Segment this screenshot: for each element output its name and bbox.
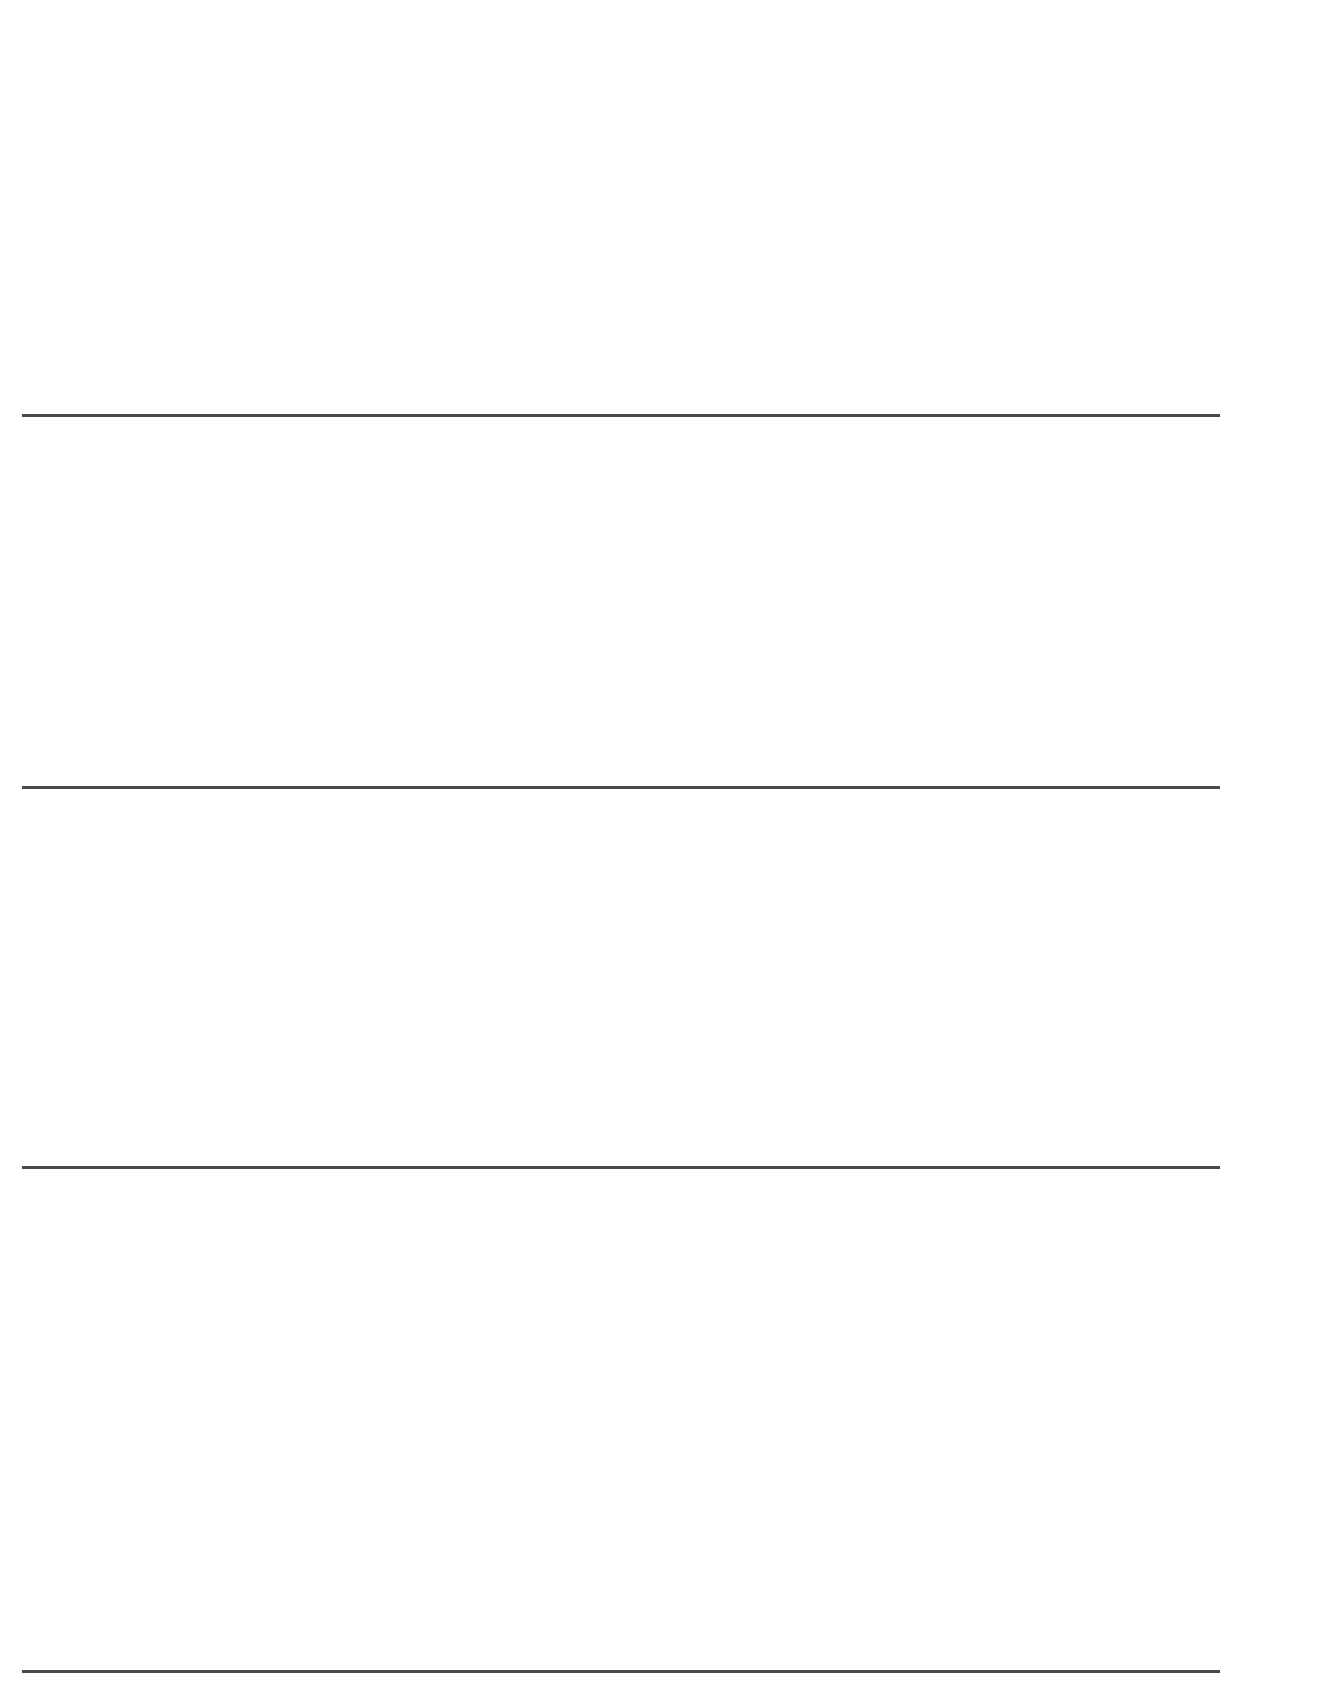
panel-separator-b xyxy=(22,786,1220,789)
panel-21c xyxy=(0,790,1342,1170)
panel-21b xyxy=(0,418,1342,790)
panel-21d xyxy=(0,1170,1342,1694)
panel-separator-c xyxy=(22,1166,1220,1169)
panel-separator-a xyxy=(22,414,1220,417)
panel-21a xyxy=(0,0,1342,418)
figure-page xyxy=(0,0,1342,1694)
panel-separator-d xyxy=(22,1670,1220,1673)
